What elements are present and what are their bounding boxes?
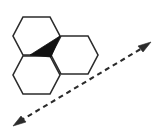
bottom-left-hexagon xyxy=(13,56,60,94)
hexagon-diagram xyxy=(0,0,160,135)
figure-container xyxy=(0,0,160,135)
right-hexagon xyxy=(51,36,98,74)
